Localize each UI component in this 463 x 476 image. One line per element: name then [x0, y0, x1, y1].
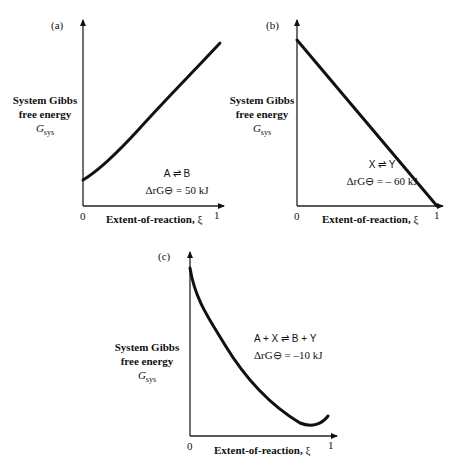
panel-b-reaction: X ⇌ Y — [342, 157, 422, 173]
figure-canvas — [0, 0, 463, 476]
panel-c-reaction-annotation: A + X ⇌ B + Y ΔrG⊖ = –10 kJ — [254, 331, 350, 363]
panel-c-tick-0: 0 — [187, 440, 193, 452]
panel-b-ylabel-symbol: Gsys — [221, 121, 303, 140]
panel-b-x-axis-label: Extent-of-reaction, ξ — [322, 213, 418, 225]
panel-a-x-axis-label: Extent-of-reaction, ξ — [106, 213, 202, 225]
panel-b-tick-0: 0 — [294, 210, 300, 222]
panel-c-ylabel-symbol: Gsys — [106, 368, 188, 387]
panel-b-tick-1: 1 — [434, 209, 440, 221]
panel-c-ylabel-line2: free energy — [106, 354, 188, 368]
panel-a-reaction: A ⇌ B — [141, 166, 213, 182]
panel-c-reaction: A + X ⇌ B + Y — [254, 331, 350, 347]
panel-a-ylabel-line1: System Gibbs — [0, 93, 90, 107]
panel-c-delta-g: ΔrG⊖ = –10 kJ — [254, 347, 350, 363]
panel-b-delta-g: ΔrG⊖ = – 60 kJ — [342, 173, 422, 189]
panel-a-tick-1: 1 — [214, 209, 220, 221]
panel-c-x-axis-label: Extent-of-reaction, ξ — [214, 444, 310, 456]
panel-c-ylabel-line1: System Gibbs — [106, 340, 188, 354]
panel-a-curve — [83, 43, 220, 180]
panel-b-ylabel-line1: System Gibbs — [221, 93, 303, 107]
panel-a-reaction-annotation: A ⇌ B ΔrG⊖ = 50 kJ — [141, 166, 213, 198]
panel-c-tick-1: 1 — [328, 439, 334, 451]
panel-b-label: (b) — [266, 19, 279, 31]
panel-a-delta-g: ΔrG⊖ = 50 kJ — [141, 182, 213, 198]
panel-b-ylabel-line2: free energy — [221, 107, 303, 121]
panel-b-y-axis-label: System Gibbs free energy Gsys — [221, 93, 303, 140]
panel-b-reaction-annotation: X ⇌ Y ΔrG⊖ = – 60 kJ — [342, 157, 422, 189]
panel-a-ylabel-line2: free energy — [0, 107, 90, 121]
panel-c-y-axis-label: System Gibbs free energy Gsys — [106, 340, 188, 387]
panel-a-y-axis-label: System Gibbs free energy Gsys — [0, 93, 90, 140]
panel-a-tick-0: 0 — [80, 210, 86, 222]
panel-a-ylabel-symbol: Gsys — [0, 121, 90, 140]
panel-c-label: (c) — [158, 250, 170, 262]
panel-a-label: (a) — [51, 19, 63, 31]
